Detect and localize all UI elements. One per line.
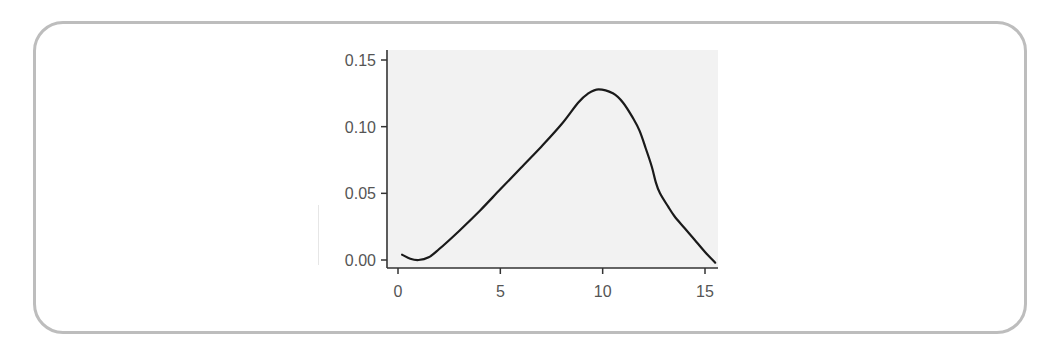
- y-axis-ticks: 0.000.050.100.15: [345, 52, 387, 269]
- x-tick-label: 15: [696, 283, 714, 300]
- y-tick-label: 0.10: [345, 119, 376, 136]
- plot-area: [388, 50, 718, 268]
- y-tick-label: 0.15: [345, 52, 376, 69]
- x-axis-ticks: 051015: [394, 268, 714, 300]
- x-tick-label: 5: [496, 283, 505, 300]
- density-chart: 0.000.050.100.15 051015: [0, 0, 1060, 347]
- y-tick-label: 0.05: [345, 185, 376, 202]
- x-tick-label: 10: [594, 283, 612, 300]
- y-tick-label: 0.00: [345, 252, 376, 269]
- x-tick-label: 0: [394, 283, 403, 300]
